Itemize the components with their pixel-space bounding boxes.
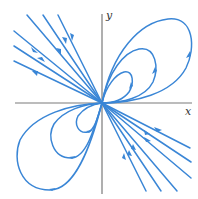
arrow-icon bbox=[62, 37, 67, 44]
trajectory-line bbox=[102, 103, 161, 191]
trajectory-line bbox=[43, 15, 102, 103]
outgoing-trajectories-lower-right bbox=[102, 103, 191, 191]
loops-upper-right bbox=[102, 19, 192, 103]
loops-lower-left bbox=[17, 103, 102, 191]
x-axis-label: x bbox=[185, 105, 192, 118]
arrow-icon bbox=[32, 71, 38, 76]
phase-portrait-diagram: x y bbox=[0, 0, 198, 199]
y-axis-label: y bbox=[105, 9, 113, 22]
arrow-icon bbox=[144, 137, 151, 142]
incoming-trajectories-upper-left bbox=[14, 15, 102, 103]
trajectory-line bbox=[14, 46, 102, 103]
arrow-icon bbox=[122, 153, 126, 160]
trajectory-loop bbox=[17, 103, 102, 190]
